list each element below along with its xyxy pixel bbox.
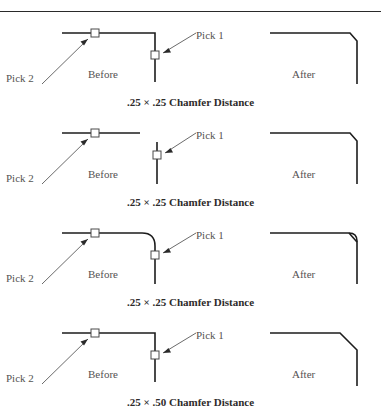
pick2-arrowhead	[81, 139, 89, 146]
panel-2-caption: .25 × .25 Chamfer Distance	[0, 196, 381, 208]
before-label: Before	[88, 68, 118, 80]
pick1-marker-box	[151, 351, 159, 359]
pick2-marker-box	[91, 329, 99, 337]
pick2-label: Pick 2	[6, 172, 34, 184]
chamfer-figure: Before After Pick 1 Pick 2 .25 × .25 Cha…	[0, 0, 381, 420]
pick2-arrowhead	[81, 39, 89, 46]
pick2-label: Pick 2	[6, 272, 34, 284]
pick2-label: Pick 2	[6, 72, 34, 84]
panel-3-caption: .25 × .25 Chamfer Distance	[0, 296, 381, 308]
panel-2: Before After Pick 1 Pick 2 .25 × .25 Cha…	[0, 112, 381, 212]
pick2-label: Pick 2	[6, 372, 34, 384]
panel-4: Before After Pick 1 Pick 2 .25 × .50 Cha…	[0, 312, 381, 412]
pick2-leader-line	[42, 339, 88, 384]
pick1-label: Pick 1	[196, 129, 224, 141]
pick1-marker-box	[153, 151, 161, 159]
pick1-marker-box	[151, 251, 159, 259]
before-label: Before	[88, 368, 118, 380]
before-label: Before	[88, 168, 118, 180]
panel-1: Before After Pick 1 Pick 2 .25 × .25 Cha…	[0, 12, 381, 112]
pick2-marker-box	[91, 129, 99, 137]
pick2-arrowhead	[81, 239, 89, 246]
after-label: After	[292, 68, 315, 80]
pick1-label: Pick 1	[196, 229, 224, 241]
pick1-marker-box	[151, 51, 159, 59]
before-label: Before	[88, 268, 118, 280]
pick2-leader-line	[42, 39, 88, 84]
pick2-marker-box	[91, 29, 99, 37]
pick2-arrowhead	[81, 339, 89, 346]
pick1-label: Pick 1	[196, 29, 224, 41]
after-label: After	[292, 268, 315, 280]
panel-3: Before After Pick 1 Pick 2 .25 × .25 Cha…	[0, 212, 381, 312]
pick2-leader-line	[42, 139, 88, 184]
panel-1-caption: .25 × .25 Chamfer Distance	[0, 96, 381, 108]
panel-4-caption: .25 × .50 Chamfer Distance	[0, 396, 381, 408]
after-label: After	[292, 368, 315, 380]
pick1-label: Pick 1	[196, 329, 224, 341]
pick2-leader-line	[42, 239, 88, 284]
after-label: After	[292, 168, 315, 180]
pick2-marker-box	[91, 229, 99, 237]
